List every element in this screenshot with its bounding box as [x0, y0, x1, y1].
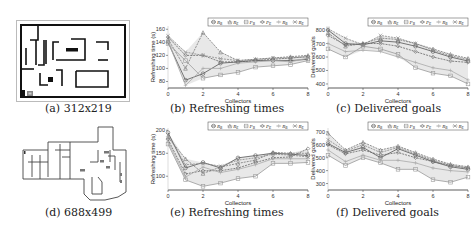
legend: RBREPBPERBRE: [208, 122, 308, 130]
panel-b-chart: 8010012014016002468CollectorsRefreshing …: [150, 8, 315, 106]
delivered-goals-chart-f: 30040050060070002468CollectorsDelivered …: [310, 118, 474, 208]
delivered-goals-chart-c: 40050060070080002468CollectorsDelivered …: [310, 8, 474, 106]
y-tick-label: 100: [156, 65, 165, 71]
y-tick-label: 80: [159, 78, 165, 84]
x-tick-label: 4: [236, 193, 239, 199]
panel-f-caption: (f) Delivered goals: [336, 206, 439, 219]
legend: RBREPBPERBRE: [368, 122, 468, 130]
map-312x219-image: [16, 20, 130, 102]
x-tick-label: 6: [431, 91, 434, 97]
panel-e-caption: (e) Refreshing times: [170, 206, 284, 219]
panel-a-caption: (a) 312x219: [45, 102, 112, 115]
y-tick-label: 500: [316, 67, 325, 73]
panel-d-map: [20, 122, 132, 202]
y-tick-label: 140: [156, 39, 165, 45]
y-tick-label: 600: [316, 142, 325, 148]
x-tick-label: 2: [201, 91, 204, 97]
y-tick-label: 300: [316, 181, 325, 187]
x-tick-label: 4: [396, 193, 399, 199]
y-tick-label: 160: [156, 26, 165, 32]
y-tick-label: 200: [156, 127, 165, 133]
refreshing-times-chart-b: 8010012014016002468CollectorsRefreshing …: [150, 8, 315, 106]
panel-c-chart: 40050060070080002468CollectorsDelivered …: [310, 8, 474, 106]
panel-d-caption: (d) 688x499: [45, 206, 112, 219]
y-axis-label: Delivered goals: [310, 36, 316, 77]
y-tick-label: 800: [316, 27, 325, 33]
y-tick-label: 400: [316, 81, 325, 87]
x-tick-label: 6: [271, 193, 274, 199]
x-tick-label: 4: [396, 91, 399, 97]
x-tick-label: 6: [431, 193, 434, 199]
panel-b-caption: (b) Refreshing times: [170, 102, 284, 115]
legend: RBREPBPERBRE: [208, 18, 308, 26]
y-tick-label: 150: [156, 150, 165, 156]
panel-c-caption: (c) Delivered goals: [336, 102, 441, 115]
x-tick-label: 0: [166, 91, 169, 97]
x-tick-label: 4: [236, 91, 239, 97]
y-tick-label: 700: [316, 129, 325, 135]
x-tick-label: 8: [466, 193, 469, 199]
y-axis-label: Delivered goals: [310, 138, 316, 179]
x-tick-label: 6: [271, 91, 274, 97]
panel-f-chart: 30040050060070002468CollectorsDelivered …: [310, 118, 474, 208]
y-tick-label: 100: [156, 173, 165, 179]
x-tick-label: 0: [166, 193, 169, 199]
y-tick-label: 120: [156, 52, 165, 58]
x-tick-label: 0: [326, 193, 329, 199]
y-axis-label: Refreshing time (s): [150, 32, 156, 83]
map-688x499-image: [20, 122, 132, 202]
refreshing-times-chart-e: 10015020002468CollectorsRefreshing time …: [150, 118, 315, 208]
panel-a-map: [16, 20, 130, 102]
panel-e-chart: 10015020002468CollectorsRefreshing time …: [150, 118, 315, 208]
x-tick-label: 2: [361, 91, 364, 97]
y-tick-label: 400: [316, 168, 325, 174]
y-tick-label: 600: [316, 54, 325, 60]
y-tick-label: 500: [316, 155, 325, 161]
x-tick-label: 8: [466, 91, 469, 97]
series-band: [328, 133, 468, 182]
x-tick-label: 2: [361, 193, 364, 199]
x-tick-label: 2: [201, 193, 204, 199]
x-tick-label: 0: [326, 91, 329, 97]
legend: RBREPBPERBRE: [368, 18, 468, 26]
y-tick-label: 700: [316, 41, 325, 47]
y-axis-label: Refreshing time (s): [150, 134, 156, 185]
